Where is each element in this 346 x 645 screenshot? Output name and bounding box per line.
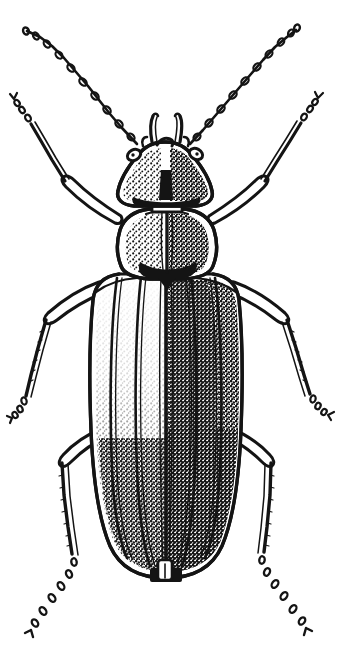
- pronotum: [117, 209, 216, 279]
- palp-right: [180, 116, 182, 142]
- beetle-illustration-figure: Beetle dorsal view line illustration Bli…: [0, 0, 346, 645]
- head-frontal-mark: [159, 170, 173, 200]
- elytra: [90, 274, 242, 578]
- beetle-drawing: [0, 0, 346, 645]
